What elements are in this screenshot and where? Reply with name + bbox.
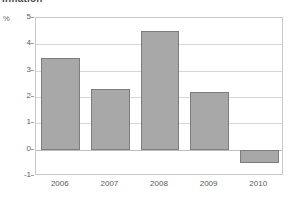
bar-2007 (91, 89, 130, 150)
x-tick-label-2010: 2010 (233, 180, 283, 188)
bar-2010 (240, 150, 279, 163)
bar-2006 (41, 58, 80, 150)
x-tick-label-2008: 2008 (134, 180, 184, 188)
y-tick-mark--1 (31, 175, 34, 176)
y-tick-mark-0 (31, 149, 34, 150)
x-tick-label-2009: 2009 (184, 180, 234, 188)
y-axis-unit-label: % (3, 14, 10, 23)
y-tick-mark-2 (31, 96, 34, 97)
bar-2008 (141, 31, 180, 150)
y-axis-tick-labels: 543210-1 (14, 0, 31, 198)
y-tick-mark-5 (31, 17, 34, 18)
y-tick-mark-4 (31, 43, 34, 44)
x-tick-label-2007: 2007 (85, 180, 135, 188)
x-tick-label-2006: 2006 (35, 180, 85, 188)
x-axis-tick-labels: 20062007200820092010 (35, 180, 283, 194)
bar-2009 (190, 92, 229, 150)
y-tick-mark-3 (31, 70, 34, 71)
plot-area (35, 17, 283, 175)
y-tick-label--1: -1 (24, 171, 31, 179)
y-tick-mark-1 (31, 122, 34, 123)
